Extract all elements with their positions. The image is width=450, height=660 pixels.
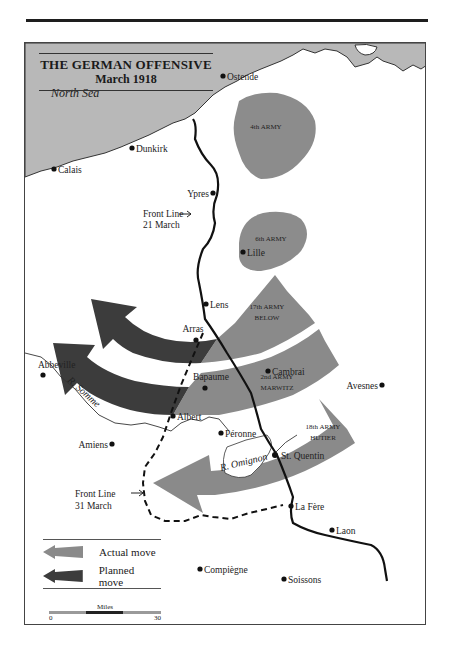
front-line-31-label-1: Front Line: [75, 489, 115, 499]
legend-label-actual: Actual move: [99, 546, 156, 558]
town-laon: Laon: [329, 526, 355, 536]
2nd-army-commander: MARWITZ: [260, 384, 293, 392]
legend: Actual move Planned move: [43, 539, 161, 589]
town-dunkirk: Dunkirk: [129, 144, 168, 154]
title-rule-top: [39, 53, 213, 54]
legend-rule-bottom: [43, 588, 161, 589]
scale-title: Miles: [49, 603, 161, 611]
legend-label-planned: Planned move: [99, 564, 161, 588]
scale-bar: Miles 0 30: [49, 603, 161, 622]
town-compiegne: Compiègne: [197, 565, 247, 575]
title-rule-bottom: [39, 90, 213, 91]
front-line-21-label-1: Front Line: [143, 209, 183, 219]
4th-army-area: [234, 93, 316, 179]
svg-text:Ypres: Ypres: [187, 189, 209, 199]
svg-text:Laon: Laon: [336, 526, 356, 536]
18th-army-commander: HUTIER: [310, 434, 336, 442]
svg-text:Dunkirk: Dunkirk: [136, 144, 168, 154]
svg-text:Abbeville: Abbeville: [38, 360, 75, 370]
map-canvas: North Sea 4th ARMY 6th ARMY 17th ARMY BE…: [25, 43, 426, 625]
svg-text:Compiègne: Compiègne: [204, 565, 248, 575]
town-soissons: Soissons: [281, 575, 321, 585]
svg-text:Péronne: Péronne: [225, 429, 256, 439]
town-avesnes: Avesnes: [347, 381, 385, 391]
svg-text:Albert: Albert: [177, 412, 202, 422]
town-la-fere: La Fère: [288, 502, 324, 512]
svg-text:St. Quentin: St. Quentin: [281, 451, 325, 461]
town-peronne: Péronne: [218, 429, 256, 439]
svg-text:Lille: Lille: [247, 248, 265, 258]
17th-army-commander: BELOW: [255, 314, 280, 322]
svg-text:Avesnes: Avesnes: [347, 381, 379, 391]
svg-text:Lens: Lens: [210, 300, 229, 310]
planned-move-arrow-icon: [43, 569, 91, 583]
4th-army-label: 4th ARMY: [250, 123, 281, 131]
legend-item-actual: Actual move: [43, 540, 161, 564]
svg-text:Cambrai: Cambrai: [272, 367, 305, 377]
svg-text:La Fère: La Fère: [295, 502, 324, 512]
svg-text:Soissons: Soissons: [288, 575, 322, 585]
actual-move-arrow-icon: [43, 545, 91, 559]
svg-text:Bapaume: Bapaume: [193, 372, 229, 382]
svg-text:Amiens: Amiens: [78, 440, 108, 450]
17th-army-label: 17th ARMY: [250, 303, 285, 311]
svg-text:Arras: Arras: [182, 324, 203, 334]
legend-item-planned: Planned move: [43, 564, 161, 588]
18th-army-label: 18th ARMY: [306, 423, 341, 431]
pointer-arrow-31-march: [131, 490, 143, 496]
town-cambrai: Cambrai: [265, 367, 305, 377]
map-title: THE GERMAN OFFENSIVE: [39, 57, 213, 72]
scale-min: 0: [49, 614, 53, 622]
front-line-21-label-2: 21 March: [143, 220, 180, 230]
scale-max: 30: [154, 614, 161, 622]
map-title-block: THE GERMAN OFFENSIVE March 1918: [39, 53, 213, 91]
svg-text:Ostende: Ostende: [227, 72, 258, 82]
top-rule: [26, 19, 428, 22]
town-amiens: Amiens: [78, 440, 114, 450]
6th-army-label: 6th ARMY: [255, 235, 286, 243]
town-lens: Lens: [203, 300, 228, 310]
map-subtitle: March 1918: [39, 72, 213, 86]
front-line-31-label-2: 31 March: [75, 501, 112, 511]
svg-text:Calais: Calais: [58, 165, 82, 175]
town-ostende: Ostende: [220, 72, 258, 82]
town-ypres: Ypres: [187, 189, 215, 199]
scale-ticks: 0 30: [49, 614, 161, 622]
town-arras: Arras: [182, 324, 203, 343]
map-frame: North Sea 4th ARMY 6th ARMY 17th ARMY BE…: [24, 42, 426, 625]
